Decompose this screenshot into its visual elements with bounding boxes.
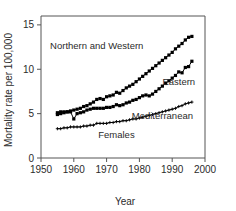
data-point [121,103,124,106]
data-point [79,107,82,110]
data-point [125,101,128,104]
data-point [190,60,193,63]
data-point [72,125,75,128]
data-point [102,107,105,110]
data-point [171,51,174,54]
data-point [92,107,95,110]
data-point [89,124,92,127]
mortality-rate-line-chart: 051015 195019601970198019902000 Northern… [0,0,236,211]
data-point [72,108,75,111]
data-point [187,36,190,39]
data-point [89,102,92,105]
data-point [105,122,108,125]
data-point [82,124,85,127]
chart-figure: 051015 195019601970198019902000 Northern… [0,0,236,211]
y-tick-label-5: 5 [28,108,34,119]
data-point [187,65,190,68]
data-point [148,94,151,97]
data-point [138,96,141,99]
data-point [105,95,108,98]
data-point [85,104,88,107]
y-tick-label-15: 15 [23,19,35,30]
data-point [190,35,193,38]
x-tick-label-1990: 1990 [161,164,184,175]
data-point [151,67,154,70]
data-point [135,80,138,83]
data-point [92,100,95,103]
data-point [75,108,78,111]
x-tick-label-1970: 1970 [95,164,118,175]
x-axis-ticks: 195019601970198019902000 [30,158,217,175]
data-point [144,72,147,75]
data-point [115,120,118,123]
data-point [157,61,160,64]
x-tick-label-2000: 2000 [194,164,217,175]
data-point [190,100,193,103]
data-point [157,87,160,90]
y-axis-ticks: 051015 [23,19,41,163]
data-point [121,119,124,122]
data-point [56,127,59,130]
data-point [85,124,88,127]
data-point [98,107,101,110]
data-point [102,122,105,125]
data-point [125,86,128,89]
data-point [75,125,78,128]
data-point [112,105,115,108]
data-point [125,119,128,122]
data-point [79,111,82,114]
annotation-mediterranean: Mediterranean [132,110,193,121]
data-point [95,98,98,101]
data-point [115,103,118,106]
data-point [62,126,65,129]
data-point [62,110,65,113]
x-axis-title: Year [115,196,136,207]
data-point [128,100,131,103]
data-point [85,108,88,111]
data-point [112,121,115,124]
annotation-eastern: Eastern [162,76,195,87]
data-point [118,92,121,95]
y-tick-label-10: 10 [23,64,35,75]
data-point [79,125,82,128]
data-point [56,111,59,114]
data-point [174,47,177,50]
data-point [118,104,121,107]
data-point [141,75,144,78]
data-point [154,90,157,93]
y-axis-title: Mortality rate per 100,000 [3,33,14,147]
data-point [131,99,134,102]
data-point [66,126,69,129]
data-point [161,59,164,62]
data-point [128,85,131,88]
data-point [108,106,111,109]
data-point [108,121,111,124]
data-point [180,71,183,74]
annotation-females: Females [98,129,135,140]
x-tick-label-1960: 1960 [63,164,86,175]
data-point [180,42,183,45]
data-point [167,53,170,56]
data-point [89,108,92,111]
data-point [66,110,69,113]
data-point [141,94,144,97]
data-point [98,122,101,125]
data-point [108,94,111,97]
data-point [135,98,138,101]
data-point [69,110,72,113]
annotation-northern-and-western: Northern and Western [50,40,143,51]
data-point [148,69,151,72]
data-point [131,83,134,86]
data-point [144,93,147,96]
x-tick-label-1950: 1950 [30,164,53,175]
data-point [151,93,154,96]
data-point [118,120,121,123]
data-point [95,107,98,110]
data-point [184,38,187,41]
data-point [121,89,124,92]
data-point [187,101,190,104]
data-point [115,91,118,94]
data-point [69,125,72,128]
x-tick-label-1980: 1980 [128,164,151,175]
data-point [75,112,78,115]
